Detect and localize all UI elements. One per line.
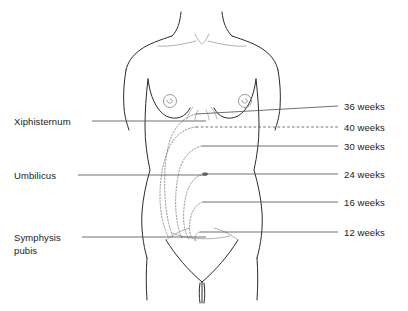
right-thigh-outer-contour [257,258,258,300]
fundal-height-diagram: Xiphisternum Umbilicus Symphysis pubis 3… [0,0,408,311]
label-week-40: 40 weeks [344,122,385,134]
left-areola [164,95,177,108]
left-clavicle [158,41,196,46]
label-week-12: 12 weeks [344,227,385,239]
label-xiphisternum: Xiphisternum [14,116,71,128]
label-symphysis-pubis-line1: Symphysis [14,232,61,244]
right-arm-outer-contour [275,70,280,130]
perineal-line-right [204,283,205,303]
week-leader-lines [196,106,338,232]
right-torso-contour [254,79,262,258]
xiphoid-mark-right [206,110,209,120]
diagram-canvas [0,0,408,311]
fundal-curve-36-weeks [165,114,196,237]
left-shoulder-contour [126,36,172,70]
neck-left-contour [172,12,181,36]
lower-abdomen-crease [172,233,230,239]
left-torso-contour [142,79,150,258]
nipple-markers [164,95,252,108]
left-breast-contour [148,79,190,118]
label-week-36: 36 weeks [344,101,385,113]
label-week-30: 30 weeks [344,141,385,153]
right-nipple [242,99,247,103]
fundal-curve-12-weeks [195,232,200,241]
sternal-notch [195,34,209,44]
label-week-24: 24 weeks [344,169,385,181]
right-clavicle [208,41,246,46]
fundal-curve-30-weeks [176,146,202,238]
label-umbilicus: Umbilicus [14,170,56,182]
fundal-height-curves [160,114,204,241]
perineal-line-left [199,283,200,303]
right-shoulder-contour [232,36,278,70]
body-outline [124,12,281,303]
label-symphysis-pubis-line2: pubis [14,245,37,257]
leader-line-36-weeks [196,106,338,114]
pubic-triangle-right [202,240,238,282]
pubic-triangle-left [166,240,202,282]
left-nipple [167,99,172,103]
xiphoid-mark-left [195,110,198,120]
label-week-16: 16 weeks [344,197,385,209]
left-thigh-outer-contour [146,258,147,300]
right-areola [239,95,252,108]
neck-right-contour [222,12,232,36]
